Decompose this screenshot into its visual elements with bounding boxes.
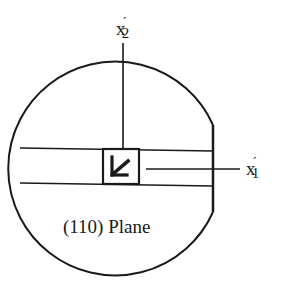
- center-die: [103, 149, 139, 184]
- x1-axis-label: x´1: [246, 154, 259, 181]
- wafer-diagram: x´2 x´1 (110) Plane: [0, 0, 292, 303]
- x2-axis-label: x´2: [116, 14, 129, 41]
- plane-label: (110) Plane: [63, 216, 150, 238]
